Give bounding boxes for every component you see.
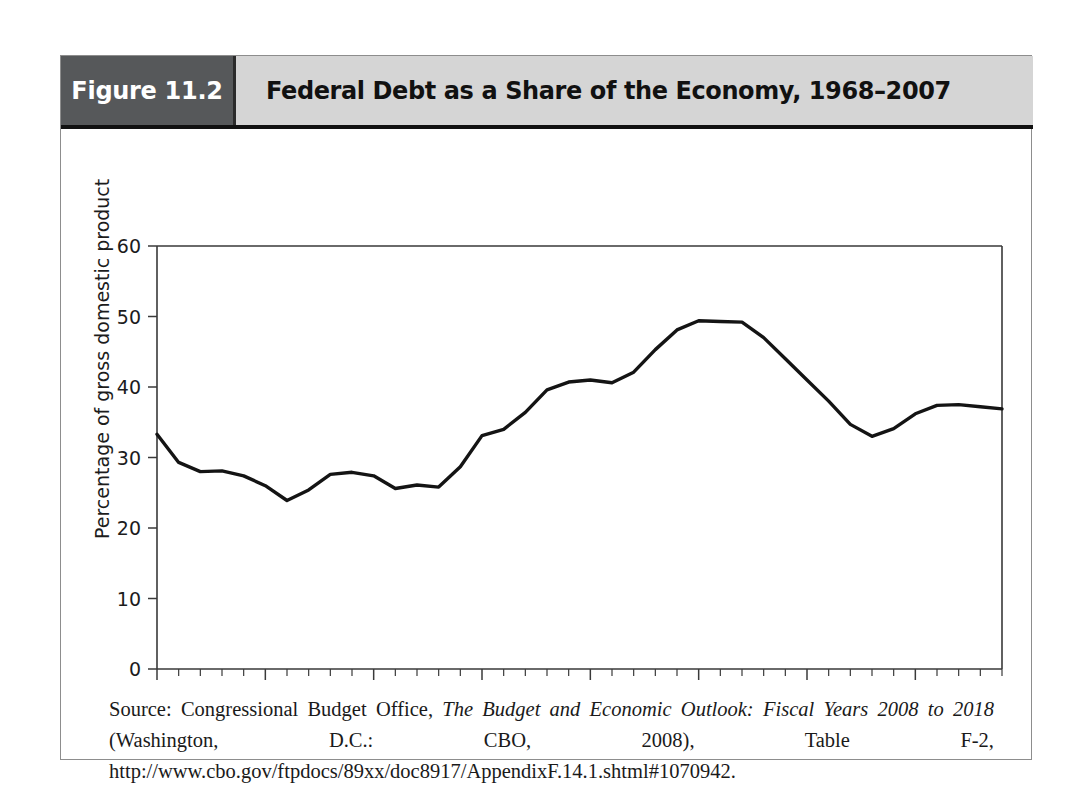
- x-axis-ticks: 19681973197819831988199319982003: [133, 669, 1002, 689]
- source-note-prefix: Source: Congressional Budget Office,: [109, 698, 442, 720]
- x-tick-label: 2003: [891, 688, 939, 689]
- figure-number-label: Figure 11.2: [71, 77, 222, 105]
- axis-frame-path: [157, 246, 1002, 669]
- y-tick-label: 10: [117, 588, 141, 610]
- x-tick-label: 1998: [783, 688, 831, 689]
- chart-plot-region: Percentage of gross domestic product 010…: [61, 129, 1033, 689]
- y-tick-label: 0: [129, 658, 141, 680]
- x-tick-label: 1968: [133, 688, 181, 689]
- y-tick-label: 30: [117, 447, 141, 469]
- x-tick-label: 1983: [458, 688, 506, 689]
- y-tick-label: 50: [117, 306, 141, 328]
- y-tick-label: 60: [117, 235, 141, 257]
- y-axis-title-text: Percentage of gross domestic product: [91, 179, 113, 539]
- figure-number-block: Figure 11.2: [61, 56, 233, 125]
- x-tick-label: 1973: [241, 688, 289, 689]
- source-note-suffix: (Washington, D.C.: CBO, 2008), Table F-2…: [109, 729, 994, 782]
- figure-frame: Figure 11.2 Federal Debt as a Share of t…: [60, 55, 1032, 760]
- source-note: Source: Congressional Budget Office, The…: [109, 694, 994, 787]
- line-chart: Percentage of gross domestic product 010…: [61, 129, 1033, 689]
- figure-title-block: Federal Debt as a Share of the Economy, …: [233, 56, 1033, 125]
- y-axis-ticks: 0102030405060: [117, 235, 157, 680]
- x-tick-label: 1993: [674, 688, 722, 689]
- y-tick-label: 20: [117, 517, 141, 539]
- figure-header: Figure 11.2 Federal Debt as a Share of t…: [61, 56, 1033, 129]
- axis-lines: [157, 246, 1002, 669]
- y-tick-label: 40: [117, 376, 141, 398]
- x-tick-label: 1988: [566, 688, 614, 689]
- source-note-italic-title: The Budget and Economic Outlook: Fiscal …: [442, 698, 994, 720]
- x-tick-label: 1978: [349, 688, 397, 689]
- data-series-line: [157, 321, 1002, 501]
- y-axis-title: Percentage of gross domestic product: [91, 179, 113, 539]
- figure-title: Federal Debt as a Share of the Economy, …: [266, 77, 951, 105]
